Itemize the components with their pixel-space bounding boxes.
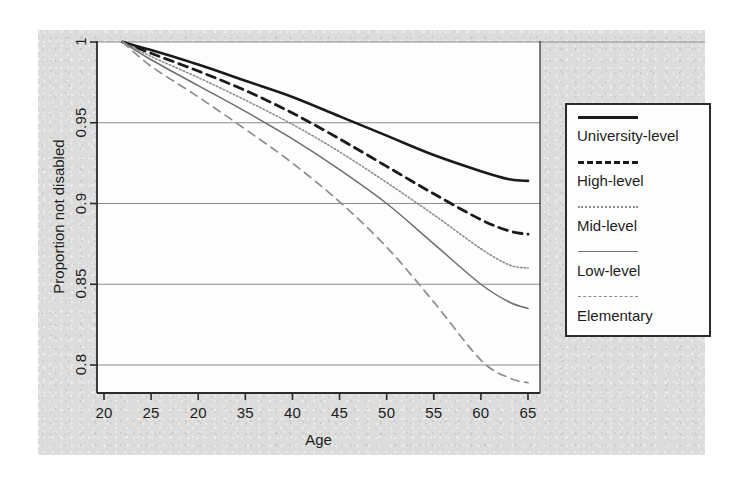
legend-label: Elementary — [577, 307, 653, 324]
legend-label: University-level — [577, 127, 679, 144]
curve-low-level — [123, 42, 528, 308]
legend-item: High-level — [567, 156, 713, 202]
legend-label: Mid-level — [577, 217, 637, 234]
chart-figure: 10.950.90.850.8 20252035404550556065 Pro… — [0, 0, 745, 483]
x-tick-label: 65 — [508, 404, 548, 421]
x-axis-title: Age — [219, 431, 419, 448]
y-tick-label: 0.9 — [72, 181, 89, 225]
x-tick-label: 25 — [131, 404, 171, 421]
legend-item: University-level — [567, 111, 713, 157]
legend-label: Low-level — [577, 262, 640, 279]
x-tick-label: 45 — [320, 404, 360, 421]
curve-mid-level — [123, 42, 528, 268]
x-tick-label: 60 — [461, 404, 501, 421]
x-tick-label: 50 — [367, 404, 407, 421]
legend-swatch-solid-thin — [578, 251, 638, 258]
y-tick-label: 0.8 — [72, 343, 89, 387]
legend-swatch-dotted — [578, 206, 638, 214]
legend-swatch-solid-thick — [578, 116, 638, 125]
y-tick-label: 0.85 — [72, 262, 89, 306]
legend-item: Elementary — [567, 291, 713, 337]
x-tick-label: 20 — [84, 404, 124, 421]
legend-box: University-levelHigh-levelMid-levelLow-l… — [565, 103, 711, 337]
legend-item: Mid-level — [567, 201, 713, 247]
x-tick-label: 20 — [178, 404, 218, 421]
legend-swatch-dashed-thin — [578, 296, 638, 303]
tick-marks-group — [90, 42, 528, 400]
x-tick-label: 35 — [225, 404, 265, 421]
legend-item: Low-level — [567, 246, 713, 292]
legend-label: High-level — [577, 172, 644, 189]
x-tick-label: 55 — [414, 404, 454, 421]
y-tick-label: 0.95 — [72, 100, 89, 144]
data-curves-group — [123, 42, 528, 383]
y-tick-label: 1 — [72, 20, 89, 64]
legend-swatch-dashed-thick — [578, 161, 638, 170]
x-tick-label: 40 — [272, 404, 312, 421]
y-axis-title: Proportion not disabled — [50, 116, 67, 316]
